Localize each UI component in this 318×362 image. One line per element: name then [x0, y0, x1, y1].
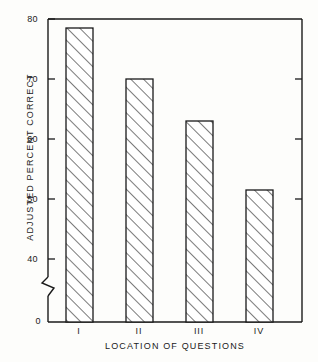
bar-I — [66, 28, 93, 322]
bar-IV — [246, 190, 273, 322]
plot-area — [0, 0, 318, 362]
bar-II — [126, 79, 153, 322]
bar-III — [186, 121, 213, 322]
bar-series — [66, 28, 273, 322]
y-axis-break-zigzag — [42, 277, 54, 296]
bar-chart-figure: ADJUSTED PERCENT CORRECT 80 70 60 50 40 … — [0, 0, 318, 362]
